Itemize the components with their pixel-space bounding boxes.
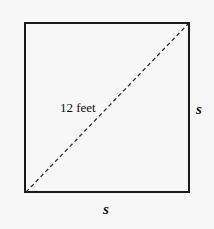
diagonal-label: 12 feet bbox=[60, 100, 96, 115]
diagonal-dashed-line bbox=[26, 24, 188, 192]
side-bottom-label: s bbox=[102, 201, 109, 217]
side-right-label: s bbox=[195, 101, 202, 117]
square-diagram: 12 feet s s bbox=[0, 0, 214, 229]
